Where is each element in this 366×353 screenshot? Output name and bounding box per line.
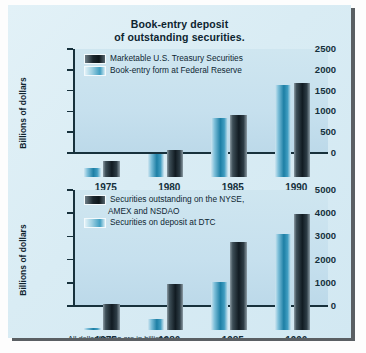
bar-1985-s0 (211, 118, 228, 177)
chart-bottom: Billions of dollars 01000200030004000500… (18, 190, 336, 330)
bar-1980-s0 (148, 319, 165, 330)
bar-group-1990: 1990 (265, 190, 329, 330)
x-tick-label-1985: 1985 (201, 335, 265, 338)
bar-1990-s1 (294, 83, 311, 177)
legend-label-nyse: Securities outstanding on the NYSE, (110, 194, 244, 205)
bar-1990-s0 (275, 234, 292, 330)
bar-1975-s1 (103, 161, 120, 177)
bar-1990-s0 (275, 85, 292, 177)
chart-page: Book-entry deposit of outstanding securi… (0, 0, 366, 353)
bar-1985-s1 (230, 115, 247, 177)
bar-1975-s0 (84, 328, 101, 330)
legend-item-treasury: Marketable U.S. Treasury Securities (84, 53, 243, 64)
bar-1980-s0 (148, 154, 165, 177)
x-tick-label-1990: 1990 (265, 335, 329, 338)
page-title: Book-entry deposit of outstanding securi… (8, 18, 351, 44)
legend-label-dtc: Securities on deposit at DTC (110, 217, 216, 228)
y-axis-label-text: Billions of dollars (18, 224, 28, 295)
y-axis-label-bottom: Billions of dollars (16, 190, 30, 330)
legend-swatch-blue-icon (84, 218, 106, 228)
footnote: All dollar figures are in billions. (68, 334, 169, 338)
legend-swatch-dark-icon (84, 54, 106, 64)
legend-bottom: Securities outstanding on the NYSE, AMEX… (84, 194, 244, 229)
legend-swatch-dark-icon (84, 195, 106, 205)
legend-label-nyse-line2: AMEX and NSDAO (108, 206, 244, 217)
legend-label-treasury: Marketable U.S. Treasury Securities (110, 53, 243, 64)
bar-1985-s0 (211, 282, 228, 330)
legend-item-dtc: Securities on deposit at DTC (84, 217, 244, 228)
bar-1975-s1 (103, 304, 120, 330)
bar-group-1990: 1990 (265, 49, 329, 177)
bar-1975-s0 (84, 168, 101, 177)
legend-item-bookentry: Book-entry form at Federal Reserve (84, 65, 243, 76)
bar-1980-s1 (167, 284, 184, 330)
legend-item-nyse: Securities outstanding on the NYSE, (84, 194, 244, 205)
bar-1985-s1 (230, 242, 247, 330)
chart-card: Book-entry deposit of outstanding securi… (8, 5, 351, 338)
legend-label-bookentry: Book-entry form at Federal Reserve (110, 65, 242, 76)
y-axis-label-top: Billions of dollars (16, 49, 30, 177)
legend-top: Marketable U.S. Treasury Securities Book… (84, 53, 243, 77)
title-line-1: Book-entry deposit (8, 18, 351, 31)
chart-top: Billions of dollars 05001000150020002500… (18, 49, 336, 177)
bar-1990-s1 (294, 214, 311, 330)
legend-swatch-blue-icon (84, 66, 106, 76)
bar-1980-s1 (167, 150, 184, 177)
y-axis-label-text: Billions of dollars (18, 77, 28, 148)
